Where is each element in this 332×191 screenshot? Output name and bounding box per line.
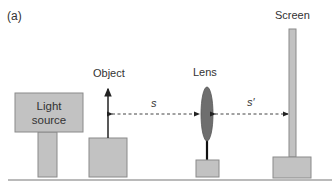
panel-label: (a): [7, 9, 22, 23]
screen-label: Screen: [275, 9, 310, 21]
object-distance-label: s: [151, 97, 157, 109]
light-source-label-line1: Light: [37, 99, 62, 113]
image-distance-label: s′: [247, 96, 255, 108]
object-stand: [89, 89, 127, 177]
object-label: Object: [93, 67, 125, 79]
lens: [196, 87, 219, 177]
screen: [273, 29, 311, 178]
lens-label: Lens: [193, 66, 217, 78]
light-source-label: Light source: [15, 93, 83, 132]
light-source-label-line2: source: [32, 113, 67, 127]
